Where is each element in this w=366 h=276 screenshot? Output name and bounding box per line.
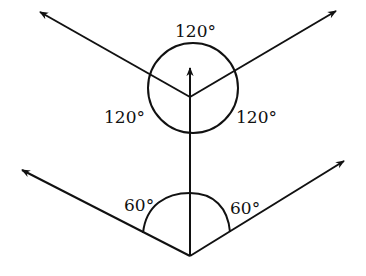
vector-angle-diagram: 120° 120° 120° 60° 60° <box>0 0 366 276</box>
diagram-graphics <box>0 0 366 276</box>
angle-label-bottom-left: 60° <box>124 197 154 214</box>
bottom-left-vector <box>22 170 190 256</box>
angle-label-right: 120° <box>236 109 277 126</box>
bottom-right-vector <box>190 161 344 256</box>
angle-label-bottom-right: 60° <box>230 200 260 217</box>
top-left-vector <box>40 12 190 97</box>
angle-circle <box>148 43 238 133</box>
angle-label-top: 120° <box>175 23 216 40</box>
angle-arc <box>143 193 230 233</box>
angle-label-left: 120° <box>104 109 145 126</box>
